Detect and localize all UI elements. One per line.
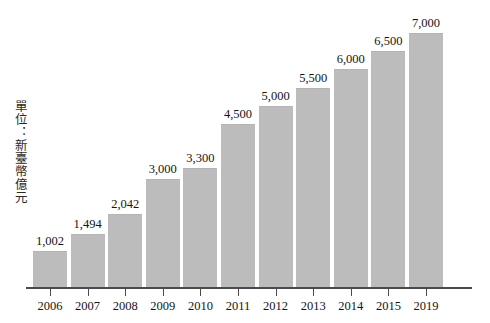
bar-value-label: 6,500 [374, 35, 402, 48]
bar-2012: 5,000 [259, 84, 293, 288]
bar-rect [259, 106, 293, 288]
bar-value-label: 4,500 [224, 108, 252, 121]
bar-rect [221, 124, 255, 288]
bar-2007: 1,494 [71, 212, 105, 288]
bar-value-label: 2,042 [111, 198, 139, 211]
bar-2010: 3,300 [183, 146, 217, 288]
axis-tick-2009 [163, 289, 164, 296]
bar-value-label: 5,000 [262, 90, 290, 103]
axis-tick-2015 [388, 289, 389, 296]
bar-rect [296, 88, 330, 288]
bar-2014: 6,000 [334, 47, 368, 288]
bar-value-label: 3,300 [186, 152, 214, 165]
axis-tick-2010 [200, 289, 201, 296]
bar-2015: 6,500 [371, 29, 405, 288]
bar-value-label: 6,000 [337, 53, 365, 66]
bar-rect [146, 179, 180, 288]
bar-2006: 1,002 [33, 229, 67, 288]
bar-rect [334, 69, 368, 288]
axis-tick-2013 [313, 289, 314, 296]
bar-value-label: 3,000 [149, 163, 177, 176]
axis-tick-2011 [238, 289, 239, 296]
x-axis-label-2019: 2019 [402, 299, 450, 314]
bar-2013: 5,500 [296, 66, 330, 288]
bar-rect [108, 214, 142, 288]
bar-chart: 單位：新臺幣億元 1,0021,4942,0423,0003,3004,5005… [0, 0, 490, 323]
bar-2011: 4,500 [221, 102, 255, 288]
bar-rect [409, 33, 443, 288]
x-axis-line [26, 287, 472, 289]
bar-value-label: 1,002 [36, 235, 64, 248]
bar-2019: 7,000 [409, 11, 443, 288]
bar-rect [33, 251, 67, 288]
bar-value-label: 5,500 [299, 72, 327, 85]
plot-area: 1,0021,4942,0423,0003,3004,5005,0005,500… [30, 0, 470, 288]
y-axis-unit-caption: 單位：新臺幣億元 [6, 92, 26, 212]
axis-tick-2008 [125, 289, 126, 296]
axis-tick-2012 [276, 289, 277, 296]
bar-value-label: 7,000 [412, 17, 440, 30]
axis-tick-2014 [351, 289, 352, 296]
bar-rect [183, 168, 217, 288]
bar-value-label: 1,494 [74, 218, 102, 231]
bar-2008: 2,042 [108, 192, 142, 288]
bar-rect [71, 234, 105, 288]
bar-2009: 3,000 [146, 157, 180, 288]
axis-tick-2007 [88, 289, 89, 296]
axis-tick-2006 [50, 289, 51, 296]
axis-tick-2019 [426, 289, 427, 296]
bar-rect [371, 51, 405, 288]
